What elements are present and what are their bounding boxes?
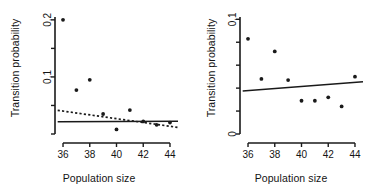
y-tick-label: 0.1 xyxy=(227,12,238,26)
data-point xyxy=(259,77,263,81)
x-tick-label: 40 xyxy=(296,149,308,160)
y-tick-label: 0.1 xyxy=(42,70,53,84)
chart-panel-right: Transition probability Population size 0… xyxy=(190,0,380,196)
solid-regression-line xyxy=(243,82,363,91)
chart-panel-left: Transition probability Population size 0… xyxy=(0,0,190,196)
x-tick-label: 36 xyxy=(57,149,69,160)
data-point xyxy=(340,105,344,109)
data-point xyxy=(101,112,105,116)
data-point xyxy=(326,95,330,99)
x-tick-label: 36 xyxy=(242,149,254,160)
data-point xyxy=(88,78,92,82)
data-point xyxy=(61,18,65,22)
figure-container: Transition probability Population size 0… xyxy=(0,0,380,196)
x-tick-label: 38 xyxy=(269,149,281,160)
data-point xyxy=(168,121,172,125)
x-tick-label: 42 xyxy=(323,149,335,160)
data-point xyxy=(313,99,317,103)
plot-area-right: 00.13638404244 xyxy=(190,0,380,196)
dashed-regression-line xyxy=(58,110,178,127)
data-point xyxy=(128,108,132,112)
data-point xyxy=(286,78,290,82)
data-point xyxy=(115,128,119,132)
x-tick-label: 44 xyxy=(349,149,361,160)
x-tick-label: 42 xyxy=(138,149,150,160)
x-tick-label: 44 xyxy=(164,149,176,160)
data-point xyxy=(74,88,78,92)
data-point xyxy=(273,50,277,54)
x-tick-label: 38 xyxy=(84,149,96,160)
plot-area-left: 0.10.23638404244 xyxy=(0,0,190,196)
data-point xyxy=(246,37,250,41)
x-tick-label: 40 xyxy=(111,149,123,160)
data-point xyxy=(353,75,357,79)
y-tick-label: 0 xyxy=(227,131,238,137)
data-point xyxy=(300,99,304,103)
data-point xyxy=(141,120,145,124)
y-tick-label: 0.2 xyxy=(42,12,53,26)
data-point xyxy=(155,123,159,127)
solid-regression-line xyxy=(58,121,178,122)
